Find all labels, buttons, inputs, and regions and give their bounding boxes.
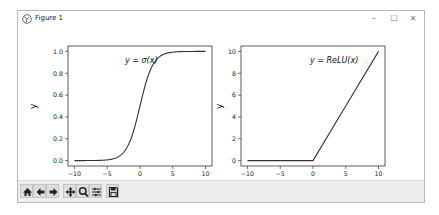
relu-ytick-label: 0: [232, 157, 236, 164]
relu-ytick-label: 2: [232, 135, 236, 142]
navigation-toolbar: [18, 180, 424, 202]
sigmoid-xtick-label: −10: [68, 170, 81, 177]
arrow-right-icon: [48, 186, 59, 198]
sigmoid-ytick-label: 1.0: [53, 48, 63, 55]
minimize-button[interactable]: –: [367, 13, 381, 25]
pan-button[interactable]: [63, 184, 76, 198]
zoom-icon: [78, 186, 89, 198]
relu-annotation: y = ReLU(x): [309, 56, 358, 65]
sigmoid-xticks: −10−50510: [68, 166, 210, 177]
home-icon: [22, 186, 33, 198]
save-icon: [108, 186, 119, 198]
sigmoid-ytick-label: 0.2: [53, 135, 63, 142]
sigmoid-ytick-label: 0.6: [53, 91, 63, 98]
relu-ytick-label: 8: [232, 70, 236, 77]
relu-ytick-label: 10: [228, 48, 236, 55]
sigmoid-xtick-label: 5: [171, 170, 175, 177]
relu-xtick-label: −5: [276, 170, 285, 177]
sigmoid-xtick-label: 10: [202, 170, 210, 177]
relu-xticks: −10−50510: [241, 166, 383, 177]
relu-ytick-label: 4: [232, 113, 236, 120]
relu-xtick-label: 10: [375, 170, 383, 177]
sigmoid-xtick-label: 0: [138, 170, 142, 177]
back-button[interactable]: [33, 184, 46, 198]
plot-canvas: 0.00.20.40.60.81.0 −10−50510 y = σ(x) y …: [18, 28, 424, 182]
configure-subplots-button[interactable]: [89, 184, 102, 198]
sigmoid-ytick-label: 0.8: [53, 70, 63, 77]
close-button[interactable]: ✕: [406, 13, 420, 25]
sigmoid-annotation: y = σ(x): [124, 56, 158, 65]
matplotlib-app-icon: [22, 14, 32, 24]
forward-button[interactable]: [46, 184, 59, 198]
relu-xtick-label: −10: [241, 170, 254, 177]
relu-ytick-label: 6: [232, 91, 236, 98]
figure-canvas[interactable]: 0.00.20.40.60.81.0 −10−50510 y = σ(x) y …: [18, 28, 424, 182]
sigmoid-axes: 0.00.20.40.60.81.0 −10−50510 y = σ(x) y: [28, 46, 212, 177]
sigmoid-ytick-label: 0.4: [53, 113, 63, 120]
sliders-icon: [91, 186, 102, 198]
title-bar[interactable]: Figure 1 – ☐ ✕: [18, 11, 424, 28]
maximize-button[interactable]: ☐: [387, 13, 401, 25]
home-button[interactable]: [20, 184, 33, 198]
relu-xtick-label: 5: [344, 170, 348, 177]
relu-ylabel: y: [214, 103, 224, 109]
sigmoid-ylabel: y: [28, 103, 38, 109]
arrow-left-icon: [35, 186, 46, 198]
relu-axes: 0246810 −10−50510 y = ReLU(x) y: [214, 46, 385, 177]
zoom-button[interactable]: [76, 184, 89, 198]
sigmoid-yticks: 0.00.20.40.60.81.0: [53, 48, 68, 164]
save-button[interactable]: [106, 184, 119, 198]
sigmoid-xtick-label: −5: [103, 170, 112, 177]
move-icon: [65, 186, 76, 198]
figure-window: Figure 1 – ☐ ✕ 0.00.20.40.60.81.0 −10−50…: [17, 10, 425, 203]
relu-xtick-label: 0: [311, 170, 315, 177]
relu-yticks: 0246810: [228, 48, 241, 164]
window-title: Figure 1: [35, 14, 63, 22]
sigmoid-ytick-label: 0.0: [53, 157, 63, 164]
